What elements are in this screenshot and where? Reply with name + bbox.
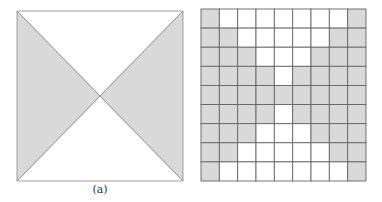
grid-cell: [219, 66, 237, 85]
grid-cell: [348, 105, 366, 124]
panel-b-grid: (b): [191, 0, 382, 202]
grid-cell: [348, 47, 366, 66]
grid-cell: [311, 85, 329, 104]
bowtie-diagram: [0, 0, 191, 202]
grid-cell: [201, 9, 219, 28]
grid-cell: [274, 85, 292, 104]
panel-a-bowtie-square: (a): [0, 0, 191, 202]
grid-cell: [238, 28, 256, 47]
grid-cell: [201, 143, 219, 162]
grid-cell: [274, 9, 292, 28]
grid-cell: [238, 47, 256, 66]
grid-cell: [311, 143, 329, 162]
grid-cell: [256, 66, 274, 85]
grid-cell: [238, 9, 256, 28]
grid-cell: [293, 47, 311, 66]
grid-cell: [311, 66, 329, 85]
grid-cell: [311, 47, 329, 66]
grid-cell: [201, 85, 219, 104]
grid-cell: [329, 28, 347, 47]
grid-cell: [329, 105, 347, 124]
grid-cell: [311, 162, 329, 181]
grid-cell: [348, 66, 366, 85]
grid-cell: [201, 28, 219, 47]
grid-cell: [348, 162, 366, 181]
grid-cell: [293, 28, 311, 47]
grid-cell: [256, 124, 274, 143]
grid-cell: [274, 162, 292, 181]
grid-cell: [293, 124, 311, 143]
grid-cell: [348, 124, 366, 143]
grid-cell: [329, 66, 347, 85]
grid-cell: [219, 9, 237, 28]
grid-cell: [274, 105, 292, 124]
grid-cell: [293, 162, 311, 181]
grid-cell: [256, 47, 274, 66]
grid-cell: [348, 28, 366, 47]
grid-cell: [219, 143, 237, 162]
grid-cell: [329, 162, 347, 181]
grid-cell: [256, 143, 274, 162]
grid-cell: [256, 105, 274, 124]
grid-cell: [293, 143, 311, 162]
grid-cell: [238, 162, 256, 181]
grid-cell: [238, 143, 256, 162]
grid-cell: [219, 162, 237, 181]
grid-cell: [293, 105, 311, 124]
grid-cell: [274, 28, 292, 47]
grid-cell: [274, 143, 292, 162]
grid-cell: [256, 9, 274, 28]
grid-cell: [201, 124, 219, 143]
grid-cell: [201, 47, 219, 66]
grid-cell: [348, 143, 366, 162]
caption-a: (a): [70, 183, 130, 196]
grid-cell: [311, 9, 329, 28]
grid-cell: [238, 105, 256, 124]
grid-cell: [293, 9, 311, 28]
grid-cell: [238, 85, 256, 104]
grid-cell: [329, 47, 347, 66]
grid-cell: [201, 105, 219, 124]
grid-cell: [348, 85, 366, 104]
grid-cell: [311, 105, 329, 124]
grid-cell: [219, 85, 237, 104]
grid-cell: [201, 162, 219, 181]
grid-cell: [329, 9, 347, 28]
grid-cell: [274, 124, 292, 143]
grid-cell: [238, 124, 256, 143]
grid-cell: [219, 47, 237, 66]
grid-cell: [256, 28, 274, 47]
grid-cell: [348, 9, 366, 28]
grid-cell: [329, 124, 347, 143]
grid-cell: [274, 47, 292, 66]
grid-cell: [293, 66, 311, 85]
grid-cell: [238, 66, 256, 85]
grid-cell: [219, 105, 237, 124]
grid-cell: [219, 124, 237, 143]
grid-cell: [293, 85, 311, 104]
grid-cell: [329, 85, 347, 104]
grid-cell: [256, 85, 274, 104]
grid-diagram: [191, 0, 382, 202]
grid-cell: [329, 143, 347, 162]
grid-cell: [219, 28, 237, 47]
grid-cell: [311, 28, 329, 47]
grid-cell: [274, 66, 292, 85]
grid-cell: [201, 66, 219, 85]
grid-cell: [256, 162, 274, 181]
grid-cell: [311, 124, 329, 143]
